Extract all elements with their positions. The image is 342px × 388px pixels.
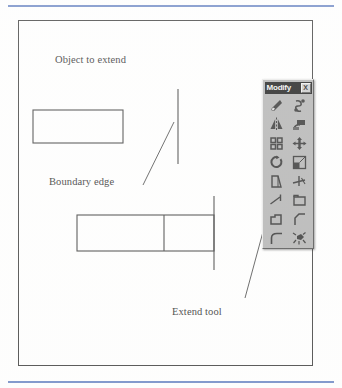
extend-icon [269, 193, 284, 208]
extend-tool-button[interactable] [265, 191, 289, 210]
label-object-to-extend: Object to extend [55, 54, 126, 65]
stretch-tool-button[interactable] [265, 172, 289, 191]
array-icon [269, 136, 284, 151]
fillet-icon [269, 231, 284, 246]
move-arrows-icon [292, 136, 307, 151]
trim-tool-button[interactable] [288, 172, 312, 191]
break-tool-button[interactable] [265, 210, 289, 229]
toolbar-button-grid [265, 96, 312, 248]
upper-rectangle [33, 110, 123, 143]
label-boundary-edge: Boundary edge [49, 176, 114, 187]
move-tool-button[interactable] [288, 134, 312, 153]
mirror-icon [269, 117, 284, 132]
copy-tool-button[interactable] [288, 96, 312, 115]
offset-icon [292, 117, 307, 132]
modify-toolbar[interactable]: Modify X [262, 79, 314, 249]
trim-icon [292, 174, 307, 189]
erase-tool-button[interactable] [265, 96, 289, 115]
copy-icon [292, 98, 307, 113]
toolbar-titlebar[interactable]: Modify X [265, 82, 312, 94]
mirror-tool-button[interactable] [265, 115, 289, 134]
eraser-icon [269, 98, 284, 113]
break-at-point-tool-button[interactable] [288, 191, 312, 210]
explode-icon [292, 231, 307, 246]
chamfer-tool-button[interactable] [288, 210, 312, 229]
scale-icon [292, 155, 307, 170]
array-tool-button[interactable] [265, 134, 289, 153]
label-extend-tool: Extend tool [172, 306, 222, 317]
stretch-icon [269, 174, 284, 189]
toolbar-title: Modify [267, 82, 292, 94]
explode-tool-button[interactable] [288, 229, 312, 248]
break-at-point-icon [292, 193, 307, 208]
fillet-tool-button[interactable] [265, 229, 289, 248]
leader-boundary-edge [143, 122, 174, 185]
offset-tool-button[interactable] [288, 115, 312, 134]
chamfer-icon [292, 212, 307, 227]
rotate-tool-button[interactable] [265, 153, 289, 172]
break-icon [269, 212, 284, 227]
rotate-icon [269, 155, 284, 170]
close-icon[interactable]: X [301, 83, 311, 93]
scale-tool-button[interactable] [288, 153, 312, 172]
lower-rectangle [77, 215, 214, 251]
